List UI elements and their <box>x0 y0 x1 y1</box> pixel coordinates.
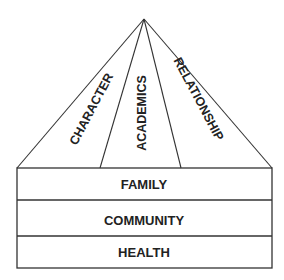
roof-label-academics: ACADEMICS <box>135 75 149 151</box>
roof-right-edge <box>144 19 272 168</box>
base-layer-health: HEALTH <box>118 245 170 260</box>
roof-label-character: CHARACTER <box>67 71 117 147</box>
base-layer-family: FAMILY <box>121 177 168 192</box>
roof-label-relationship: RELATIONSHIP <box>171 55 227 143</box>
roof-left-edge <box>17 19 144 168</box>
pyramid-diagram: CHARACTER ACADEMICS RELATIONSHIP FAMILY … <box>0 0 284 280</box>
base-layer-community: COMMUNITY <box>104 213 184 228</box>
